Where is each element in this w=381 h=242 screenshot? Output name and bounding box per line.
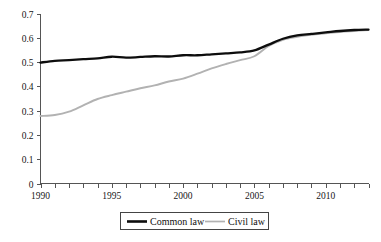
y-axis-tick-label: 0.2 [22, 131, 34, 141]
y-axis-tick-label: 0.6 [22, 34, 34, 44]
y-axis-tick-label: 0.3 [22, 107, 34, 117]
y-axis-tick-label: 0.5 [22, 58, 34, 68]
y-axis-tick-label: 0 [29, 180, 34, 190]
legend-label-common-law: Common law [150, 216, 205, 227]
chart-figure: 00.10.20.30.40.50.60.7 19901995200020052… [0, 0, 381, 242]
chart-legend: Common law Civil law [121, 213, 269, 230]
x-axis-tick-label: 2010 [316, 191, 335, 201]
y-axis-tick-label: 0.7 [22, 10, 34, 20]
y-axis-tick-marks [37, 15, 41, 185]
x-axis-tick-labels: 19901995200020052010 [31, 191, 335, 201]
x-axis-tick-label: 1990 [31, 191, 50, 201]
legend-label-civil-law: Civil law [228, 216, 266, 227]
x-axis-tick-label: 2000 [174, 191, 193, 201]
y-axis-tick-label: 0.1 [22, 155, 34, 165]
y-axis-tick-label: 0.4 [22, 82, 34, 92]
y-axis-tick-labels: 00.10.20.30.40.50.60.7 [22, 10, 34, 190]
x-axis-tick-label: 2005 [245, 191, 264, 201]
line-chart: 00.10.20.30.40.50.60.7 19901995200020052… [0, 0, 381, 242]
x-axis-tick-marks [42, 184, 370, 188]
series-line-civil-law [41, 30, 369, 116]
x-axis-tick-label: 1995 [102, 191, 121, 201]
